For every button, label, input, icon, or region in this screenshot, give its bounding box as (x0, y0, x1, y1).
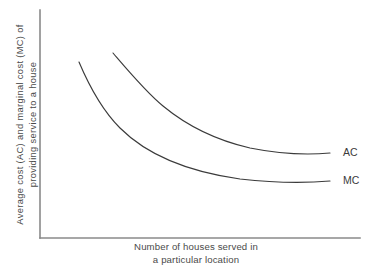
ac-curve (113, 53, 330, 154)
mc-curve-label: MC (343, 174, 360, 186)
mc-curve (79, 62, 330, 182)
plot-area: AC MC (0, 0, 369, 277)
x-axis-label-line-2: a particular location (40, 253, 352, 266)
ac-curve-label: AC (343, 146, 358, 158)
x-axis-label: Number of houses served in a particular … (40, 240, 352, 266)
cost-curves-figure: Average cost (AC) and marginal cost (MC)… (0, 0, 369, 277)
x-axis-label-line-1: Number of houses served in (40, 240, 352, 253)
